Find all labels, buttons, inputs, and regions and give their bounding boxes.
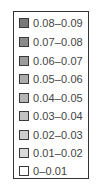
legend-item: 0.03–0.04 <box>19 109 83 123</box>
legend-label: 0.02–0.03 <box>33 128 83 142</box>
legend-swatch <box>19 56 29 66</box>
legend-swatch <box>19 111 29 121</box>
legend-swatch <box>19 148 29 158</box>
legend-item: 0.07–0.08 <box>19 35 83 49</box>
legend-item: 0.06–0.07 <box>19 54 83 68</box>
legend-item: 0–0.01 <box>19 164 67 178</box>
legend-label: 0.06–0.07 <box>33 54 83 68</box>
legend-label: 0.07–0.08 <box>33 35 83 49</box>
legend-label: 0.01–0.02 <box>33 146 83 160</box>
legend-label: 0–0.01 <box>33 164 67 178</box>
legend-swatch <box>19 37 29 47</box>
legend-item: 0.01–0.02 <box>19 146 83 160</box>
color-legend: 0.08–0.09 0.07–0.08 0.06–0.07 0.05–0.06 … <box>13 11 89 179</box>
legend-label: 0.04–0.05 <box>33 91 83 105</box>
legend-item: 0.05–0.06 <box>19 72 83 86</box>
legend-label: 0.03–0.04 <box>33 109 83 123</box>
legend-swatch <box>19 74 29 84</box>
legend-item: 0.08–0.09 <box>19 16 83 30</box>
legend-label: 0.08–0.09 <box>33 16 83 30</box>
legend-swatch <box>19 130 29 140</box>
legend-swatch <box>19 93 29 103</box>
legend-item: 0.04–0.05 <box>19 91 83 105</box>
legend-item: 0.02–0.03 <box>19 128 83 142</box>
legend-swatch <box>19 166 29 176</box>
legend-swatch <box>19 18 29 28</box>
legend-label: 0.05–0.06 <box>33 72 83 86</box>
